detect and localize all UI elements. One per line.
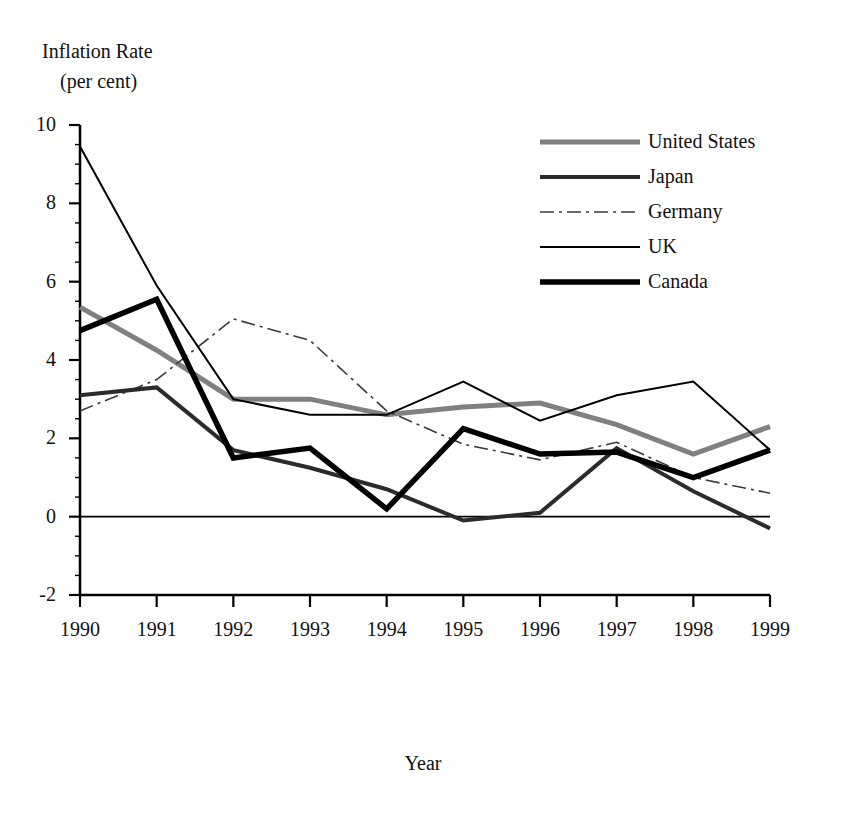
y-axis-tick-label: 2 — [10, 427, 56, 447]
y-axis-tick-label: 10 — [10, 114, 56, 134]
legend-layer — [540, 142, 640, 282]
legend-item-canada: Canada — [648, 271, 708, 291]
x-axis-tick-label: 1999 — [732, 619, 808, 639]
y-axis-title-line-2: (per cent) — [60, 68, 137, 94]
x-axis-tick-label: 1992 — [195, 619, 271, 639]
y-axis-tick-label: 0 — [10, 506, 56, 526]
x-axis-tick-label: 1998 — [655, 619, 731, 639]
x-axis-title: Year — [0, 752, 846, 775]
legend-item-uk: UK — [648, 236, 677, 256]
series-line-uk — [80, 147, 770, 451]
x-axis-tick-label: 1993 — [272, 619, 348, 639]
x-axis-tick-label: 1996 — [502, 619, 578, 639]
axes-layer — [69, 125, 770, 607]
legend-item-united-states: United States — [648, 131, 755, 151]
legend-item-japan: Japan — [648, 166, 694, 186]
y-axis-tick-label: 8 — [10, 192, 56, 212]
x-axis-tick-label: 1991 — [119, 619, 195, 639]
x-axis-tick-label: 1994 — [349, 619, 425, 639]
series-line-united-states — [80, 307, 770, 454]
plot-area — [0, 0, 846, 818]
x-axis-tick-label: 1995 — [425, 619, 501, 639]
y-axis-title-line-1: Inflation Rate — [42, 38, 153, 64]
x-axis-tick-label: 1990 — [42, 619, 118, 639]
y-axis-tick-label: -2 — [10, 584, 56, 604]
inflation-rate-line-chart: Inflation Rate (per cent) Year 1086420-2… — [0, 0, 846, 818]
y-axis-tick-label: 6 — [10, 271, 56, 291]
y-axis-tick-label: 4 — [10, 349, 56, 369]
legend-item-germany: Germany — [648, 201, 722, 221]
x-axis-tick-label: 1997 — [579, 619, 655, 639]
